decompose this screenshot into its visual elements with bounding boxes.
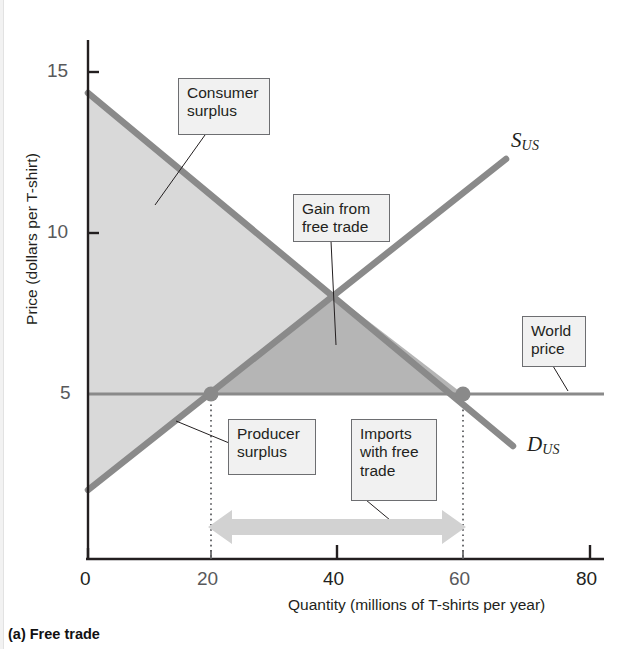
x-tick-label-80: 80: [576, 568, 597, 590]
marker-q60: [456, 387, 471, 402]
x-tick-label-0: 0: [80, 568, 91, 590]
y-tick-label-15: 15: [47, 60, 68, 82]
leader-world-price: [553, 366, 568, 391]
imports-span-arrow: [208, 510, 466, 544]
demand-curve-label-sub: US: [542, 442, 560, 457]
callout-world-price: World price: [522, 316, 586, 367]
y-axis-label: Price (dollars per T-shirt): [23, 129, 41, 349]
supply-curve-label-main: S: [511, 128, 522, 152]
free-trade-figure: Price (dollars per T-shirt) Quantity (mi…: [0, 0, 628, 649]
x-tick-label-60: 60: [449, 568, 470, 590]
supply-curve-label-sub: US: [522, 138, 540, 153]
page-edge-strip: [0, 0, 4, 649]
callout-gain-from-free-trade: Gain from free trade: [293, 194, 390, 242]
callout-producer-surplus: Producer surplus: [228, 419, 316, 475]
leader-producer-surplus: [176, 421, 234, 445]
marker-q20: [204, 387, 219, 402]
callout-imports-with-free-trade: Imports with free trade: [351, 419, 437, 501]
demand-curve-label: DUS: [527, 432, 560, 458]
x-axis-label: Quantity (millions of T-shirts per year): [288, 596, 545, 614]
x-tick-label-20: 20: [197, 568, 218, 590]
demand-curve-label-main: D: [527, 432, 542, 456]
y-tick-label-5: 5: [60, 382, 71, 404]
x-tick-label-40: 40: [323, 568, 344, 590]
y-tick-label-10: 10: [47, 221, 68, 243]
figure-caption: (a) Free trade: [8, 626, 100, 642]
callout-consumer-surplus: Consumer surplus: [178, 78, 270, 135]
supply-curve-label: SUS: [511, 128, 539, 154]
